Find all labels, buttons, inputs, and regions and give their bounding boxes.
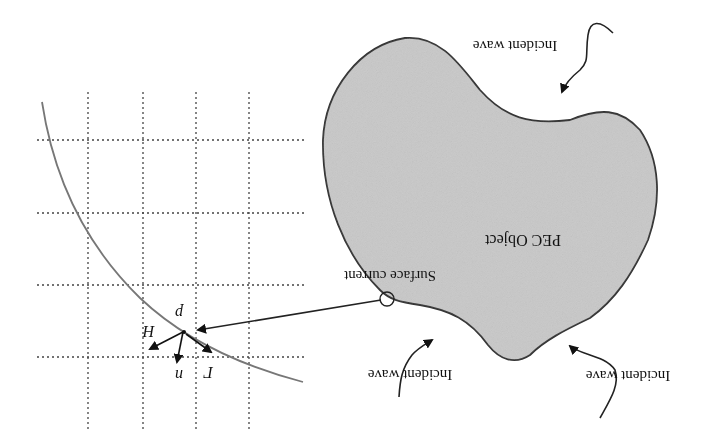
h-vector: [150, 332, 183, 349]
surface-current-leader: [198, 300, 381, 330]
gamma-vector: [186, 334, 211, 352]
incident-wave-label-top: Incident wave: [455, 38, 575, 53]
object-texture: [323, 38, 657, 360]
incident-wave-arrow-top: [562, 23, 613, 92]
boundary-curve: [42, 102, 303, 382]
incident-wave-label-left: Incident wave: [350, 367, 470, 382]
gamma-vector-label: Γ: [204, 364, 213, 380]
incident-wave-label-right: Incident wave: [568, 368, 688, 383]
point-label: p: [175, 305, 183, 321]
computational-grid: [37, 92, 305, 430]
h-vector-label: H: [143, 323, 155, 339]
pec-object-label: PEC Object: [468, 232, 578, 248]
surface-current-label: Surface current: [325, 268, 455, 283]
n-vector-label: n: [175, 367, 183, 383]
grid-point: [182, 330, 186, 334]
field-vectors: [150, 332, 211, 362]
